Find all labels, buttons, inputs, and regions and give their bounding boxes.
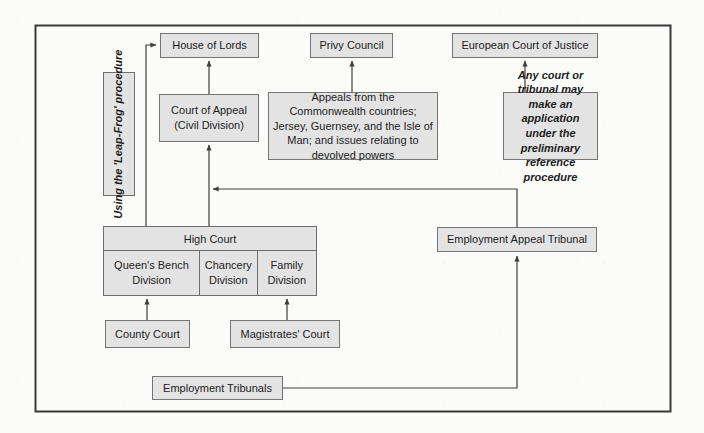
node-magistrates-court[interactable]: Magistrates' Court (230, 320, 340, 348)
court-of-appeal-label: Court of Appeal (Civil Division) (164, 103, 254, 132)
node-employment-tribunals[interactable]: Employment Tribunals (152, 376, 283, 400)
high-court-label: High Court (184, 233, 237, 245)
leap-frog-procedure-label: Using the 'Leap-Frog' procedure (112, 49, 126, 218)
high-court-header[interactable]: High Court (103, 226, 317, 250)
division-family[interactable]: Family Division (258, 251, 316, 295)
diagram-page: Using the 'Leap-Frog' procedure House of… (0, 0, 704, 433)
node-ecj-reference-note: Any court or tribunal may make an applic… (503, 92, 598, 160)
node-house-of-lords[interactable]: House of Lords (160, 33, 259, 58)
european-court-of-justice-label: European Court of Justice (457, 38, 593, 53)
division-queens-bench[interactable]: Queen's Bench Division (104, 251, 200, 295)
edge-employment-appeal-tribunal-to-court-of-appeal (213, 189, 517, 227)
node-court-of-appeal[interactable]: Court of Appeal (Civil Division) (159, 94, 259, 142)
employment-appeal-tribunal-label: Employment Appeal Tribunal (442, 232, 592, 247)
node-county-court[interactable]: County Court (105, 320, 190, 348)
house-of-lords-label: House of Lords (165, 38, 254, 53)
division-chancery[interactable]: Chancery Division (200, 251, 257, 295)
magistrates-court-label: Magistrates' Court (235, 327, 335, 342)
court-hierarchy-diagram (0, 0, 704, 433)
ecj-reference-note-label: Any court or tribunal may make an applic… (508, 68, 593, 184)
node-privy-council-jurisdiction: Appeals from the Commonwealth countries;… (268, 92, 438, 160)
node-european-court-of-justice[interactable]: European Court of Justice (452, 33, 598, 58)
leap-frog-procedure-box: Using the 'Leap-Frog' procedure (103, 72, 135, 196)
edge-high-court-to-house-of-lords-leapfrog (146, 45, 156, 226)
employment-tribunals-label: Employment Tribunals (157, 381, 278, 396)
privy-council-label: Privy Council (315, 38, 388, 53)
chancery-division-label: Chancery Division (202, 258, 254, 287)
high-court-divisions-row: Queen's Bench Division Chancery Division… (103, 250, 317, 296)
family-division-label: Family Division (260, 258, 314, 287)
node-employment-appeal-tribunal[interactable]: Employment Appeal Tribunal (437, 227, 597, 252)
node-privy-council[interactable]: Privy Council (310, 33, 393, 58)
privy-council-jurisdiction-label: Appeals from the Commonwealth countries;… (273, 90, 433, 163)
queens-bench-division-label: Queen's Bench Division (106, 258, 197, 287)
county-court-label: County Court (110, 327, 185, 342)
